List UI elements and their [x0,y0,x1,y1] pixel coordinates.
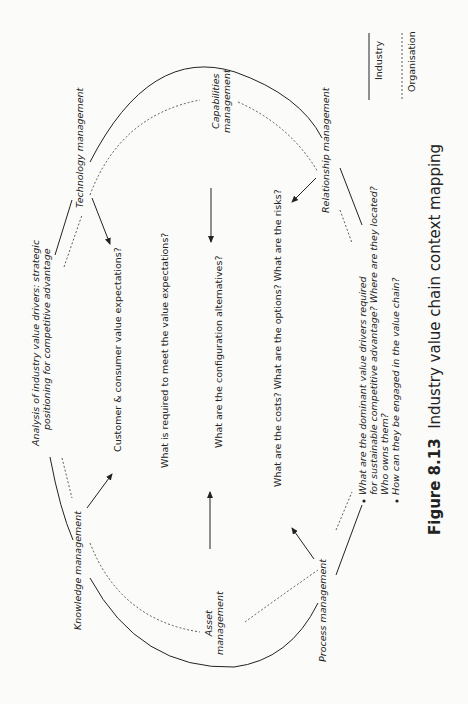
node-analysis: Analysis of industry value drivers: stra… [30,240,52,446]
industry-arc-bottom-right [336,505,362,575]
question-required: What is required to meet the value expec… [159,233,170,468]
organisation-arc-right-lower [340,210,352,243]
node-technology-management: Technology management [74,88,85,208]
bullet-dot [395,499,398,502]
question-costs-options-risks: What are the costs? What are the options… [272,189,283,487]
figure-number: Figure 8.13 [426,438,444,535]
legend-industry-text: Industry [373,41,384,80]
node-capabilities-line2: management [221,69,232,133]
organisation-arc-bottom-right [336,492,352,530]
legend-organisation-text: Organisation [406,31,417,92]
bullet-1-line3: Who owns them? [379,186,390,495]
node-capabilities-management: Capabilities management [210,69,232,133]
organisation-arc-top-right [90,100,200,195]
node-process-management: Process management [317,559,328,662]
arrow-knowledge-to-customer [87,474,112,508]
question-customer-expectations: Customer & consumer value expectations? [112,247,123,452]
arrow-process-to-costs [292,528,314,559]
figure-title: Industry value chain context mapping [426,144,444,429]
question-configuration: What are the configuration alternatives? [213,256,224,448]
organisation-arc-left-upper [62,458,72,498]
node-asset-management: Asset management [203,591,225,655]
arrow-technology-to-customer [92,198,110,244]
node-asset-line2: management [214,591,225,655]
industry-arc-right [235,72,322,138]
bullet-list: What are the dominant value drivers requ… [357,186,401,495]
arrow-relationship-to-costs [292,178,316,202]
node-knowledge-management: Knowledge management [72,511,83,630]
bullet-1-line1: What are the dominant value drivers requ… [357,186,368,495]
node-relationship-management: Relationship management [320,88,331,213]
organisation-arc-right [238,102,318,172]
bullet-dot [362,499,365,502]
bullet-1-line2: for sustainable competitive advantage? W… [368,186,379,495]
node-capabilities-line1: Capabilities [210,69,221,133]
industry-arc-top [55,200,72,255]
bullet-2-line1: How can they be engaged in the value cha… [390,186,401,495]
organisation-arc-top [64,215,82,267]
node-asset-line1: Asset [203,591,214,655]
industry-arc-left-upper [50,457,73,540]
organisation-arc-bottom [245,570,318,622]
node-analysis-line1: Analysis of industry value drivers: stra… [30,240,41,446]
industry-arc-bottom [234,603,318,667]
organisation-arc-left-lower [90,543,200,632]
node-analysis-line2: positioning for competitive advantage [41,240,52,446]
figure-caption: Figure 8.13 Industry value chain context… [430,144,441,535]
